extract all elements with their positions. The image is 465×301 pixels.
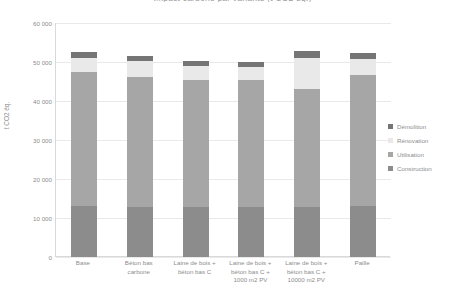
bars-layer — [56, 23, 391, 257]
chart-title: Impact carbone par variante (t CO2 éq.) — [0, 0, 465, 2]
x-axis-tick-label-line: Laine de bois + — [278, 259, 334, 268]
bar-segment[interactable] — [238, 67, 264, 81]
bar-segment[interactable] — [294, 51, 320, 58]
legend-label: Utilisation — [397, 151, 424, 158]
y-axis-tick-labels: 60 00050 00040 00030 00020 00010 0000 — [0, 23, 52, 257]
x-axis-tick-label: Béton bascarbone — [111, 259, 167, 276]
bar-segment[interactable] — [183, 66, 209, 80]
y-axis-tick-label: 60 000 — [4, 20, 52, 27]
legend-label: Construction — [397, 165, 432, 172]
x-axis-tick-label: Laine de bois +béton bas C — [167, 259, 223, 276]
bar-segment[interactable] — [127, 61, 153, 77]
x-axis-tick-label-line: béton bas C + — [222, 268, 278, 277]
bar-segment[interactable] — [71, 72, 97, 207]
stacked-bar-chart: Impact carbone par variante (t CO2 éq.) … — [0, 0, 465, 301]
x-axis-tick-label-line: 10000 m2 PV — [278, 276, 334, 285]
bar-group[interactable] — [238, 62, 264, 257]
legend-item[interactable]: Utilisation — [388, 147, 464, 161]
plot-area — [55, 23, 390, 257]
legend-item[interactable]: Rénovation — [388, 133, 464, 147]
bar-group[interactable] — [71, 52, 97, 257]
legend-label: Rénovation — [397, 137, 428, 144]
bar-segment[interactable] — [71, 206, 97, 257]
x-axis-tick-label-line: béton bas C + — [278, 268, 334, 277]
x-axis-tick-label-line: béton bas C — [167, 268, 223, 277]
x-axis-tick-label-line: Paille — [334, 259, 390, 268]
x-axis-tick-label-line: Laine de bois + — [167, 259, 223, 268]
bar-segment[interactable] — [350, 59, 376, 75]
legend-item[interactable]: Démolition — [388, 119, 464, 133]
bar-group[interactable] — [294, 51, 320, 257]
x-axis-tick-label: Laine de bois +béton bas C +10000 m2 PV — [278, 259, 334, 285]
bar-group[interactable] — [127, 56, 153, 257]
bar-group[interactable] — [350, 53, 376, 257]
x-axis-tick-label: Base — [55, 259, 111, 268]
x-axis-tick-label-line: Base — [55, 259, 111, 268]
bar-segment[interactable] — [127, 77, 153, 207]
bar-group[interactable] — [183, 61, 209, 257]
y-axis-tick-label: 40 000 — [4, 98, 52, 105]
x-axis-tick-labels: BaseBéton bascarboneLaine de bois +béton… — [55, 259, 390, 301]
x-axis-tick-label-line: Béton bas — [111, 259, 167, 268]
bar-segment[interactable] — [294, 58, 320, 89]
y-axis-tick-label: 20 000 — [4, 176, 52, 183]
bar-segment[interactable] — [127, 207, 153, 257]
y-axis-tick-label: 30 000 — [4, 137, 52, 144]
legend-swatch-icon — [388, 138, 393, 143]
bar-segment[interactable] — [238, 207, 264, 257]
legend-swatch-icon — [388, 166, 393, 171]
legend-item[interactable]: Construction — [388, 161, 464, 175]
bar-segment[interactable] — [350, 75, 376, 207]
legend-label: Démolition — [397, 123, 426, 130]
x-axis-tick-label: Laine de bois +béton bas C +1000 m2 PV — [222, 259, 278, 285]
legend-swatch-icon — [388, 152, 393, 157]
x-axis-tick-label-line: Laine de bois + — [222, 259, 278, 268]
y-axis-tick-label: 10 000 — [4, 215, 52, 222]
legend-swatch-icon — [388, 124, 393, 129]
x-axis-tick-label-line: carbone — [111, 268, 167, 277]
y-axis-tick-label: 0 — [4, 254, 52, 261]
bar-segment[interactable] — [71, 58, 97, 72]
bar-segment[interactable] — [294, 89, 320, 207]
bar-segment[interactable] — [183, 80, 209, 207]
chart-legend: DémolitionRénovationUtilisationConstruct… — [388, 119, 464, 175]
y-axis-tick-label: 50 000 — [4, 59, 52, 66]
bar-segment[interactable] — [238, 80, 264, 206]
bar-segment[interactable] — [183, 207, 209, 257]
bar-segment[interactable] — [350, 206, 376, 257]
bar-segment[interactable] — [294, 207, 320, 257]
gridline — [56, 257, 391, 258]
x-axis-tick-label-line: 1000 m2 PV — [222, 276, 278, 285]
x-axis-tick-label: Paille — [334, 259, 390, 268]
